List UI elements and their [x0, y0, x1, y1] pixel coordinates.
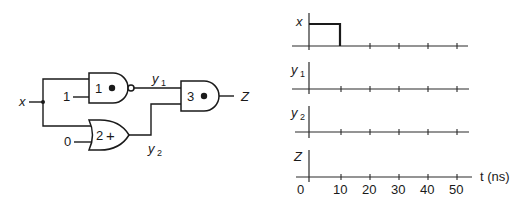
- gate-1-number: 1: [95, 81, 102, 96]
- row-label-y2-sub: 2: [300, 112, 305, 122]
- tick-50: 50: [449, 182, 463, 197]
- row-label-x: x: [295, 14, 303, 29]
- row-label-y1: y: [290, 62, 299, 77]
- tick-0: 0: [297, 182, 304, 197]
- tick-20: 20: [362, 182, 376, 197]
- const-input-0: 0: [64, 134, 71, 149]
- wire-x-to-gate2: [43, 102, 92, 126]
- timing-row-y1: y 1: [290, 62, 469, 94]
- const-input-1: 1: [63, 89, 70, 104]
- and-dot-icon: [201, 93, 207, 99]
- timing-diagram: x y 1 y 2: [290, 13, 510, 197]
- timing-row-y2: y 2: [290, 105, 469, 138]
- y1-subscript: 1: [161, 78, 166, 88]
- and-dot-icon: [109, 85, 115, 91]
- or-plus-icon: +: [106, 127, 115, 144]
- row-label-z: Z: [293, 149, 303, 164]
- row-label-y2: y: [290, 105, 299, 120]
- row-label-y1-sub: 1: [300, 69, 305, 79]
- gate-1-nand: 1: [89, 73, 134, 103]
- tick-30: 30: [391, 182, 405, 197]
- x-waveform: [309, 24, 340, 46]
- gate-3-and: 3: [181, 81, 219, 111]
- y2-label: y: [147, 141, 156, 156]
- input-x-label: x: [18, 94, 26, 109]
- y2-subscript: 2: [157, 148, 162, 158]
- time-axis-ticks: 0 10 20 30 40 50: [297, 182, 463, 197]
- logic-circuit: x 1 1 y 1 2 + 0 y 2: [18, 71, 250, 158]
- output-z-label: Z: [240, 89, 250, 104]
- tick-10: 10: [333, 182, 347, 197]
- timing-row-z: Z: [293, 149, 472, 182]
- y1-label: y: [151, 71, 160, 86]
- timing-row-x: x: [292, 13, 468, 50]
- wire-y2: [129, 104, 181, 135]
- tick-40: 40: [420, 182, 434, 197]
- gate-3-number: 3: [187, 89, 194, 104]
- gate-2-or: 2 +: [89, 120, 129, 150]
- time-axis-label: t (ns): [480, 169, 510, 184]
- gate-2-number: 2: [96, 128, 103, 143]
- diagram-canvas: x 1 1 y 1 2 + 0 y 2: [0, 0, 524, 206]
